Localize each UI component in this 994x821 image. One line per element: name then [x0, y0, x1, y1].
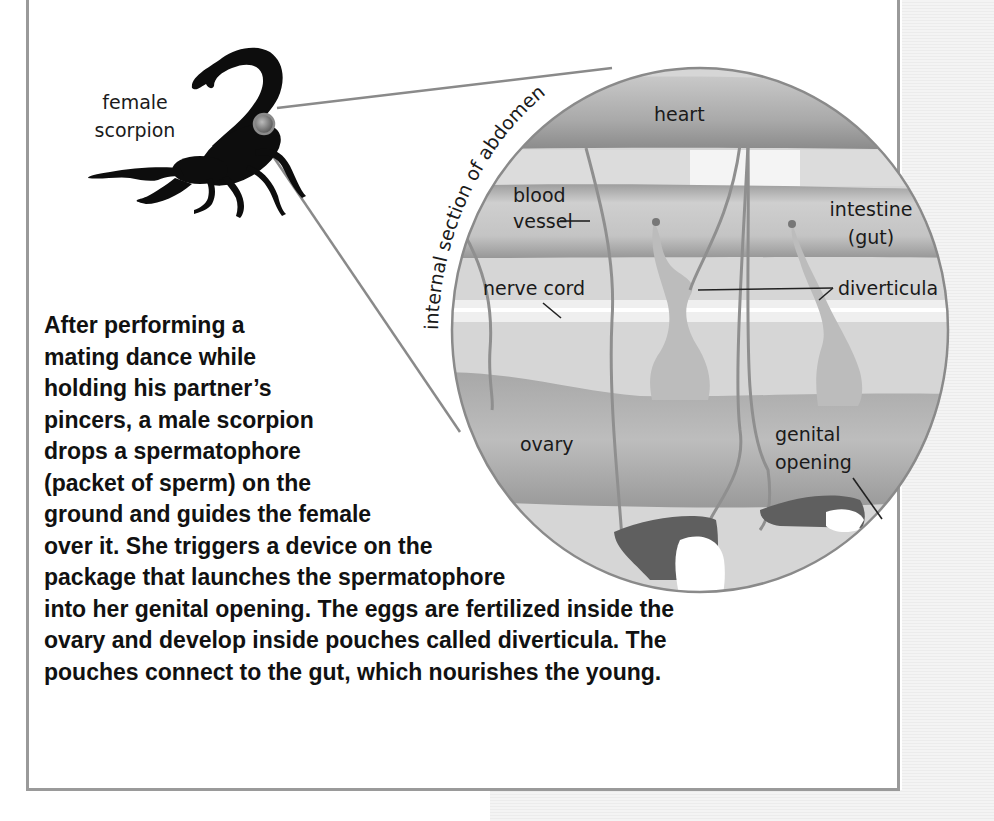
caption-line: pincers, a male scorpion — [44, 405, 674, 437]
label-blood-vessel: blood vessel — [513, 182, 573, 234]
caption-line: into her genital opening. The eggs are f… — [44, 594, 674, 626]
label-nerve-cord: nerve cord — [483, 276, 585, 300]
caption-line: drops a spermatophore — [44, 436, 674, 468]
caption-line: ground and guides the female — [44, 499, 674, 531]
label-heart: heart — [654, 102, 705, 126]
label-intestine: intestine (gut) — [821, 195, 921, 251]
label-diverticula: diverticula — [838, 276, 938, 300]
label-female-scorpion: female scorpion — [90, 88, 180, 144]
caption-line: pouches connect to the gut, which nouris… — [44, 657, 674, 689]
abdomen-highlight-icon — [254, 114, 274, 134]
zoom-line-top — [277, 68, 612, 108]
caption-line: package that launches the spermatophore — [44, 562, 674, 594]
caption-line: over it. She triggers a device on the — [44, 531, 674, 563]
label-genital-opening: genital opening — [775, 420, 852, 476]
caption-line: mating dance while — [44, 342, 674, 374]
caption-line: holding his partner’s — [44, 373, 674, 405]
caption-line: (packet of sperm) on the — [44, 468, 674, 500]
caption-line: ovary and develop inside pouches called … — [44, 625, 674, 657]
caption-line: After performing a — [44, 310, 674, 342]
caption-text: After performing a mating dance while ho… — [44, 310, 674, 688]
